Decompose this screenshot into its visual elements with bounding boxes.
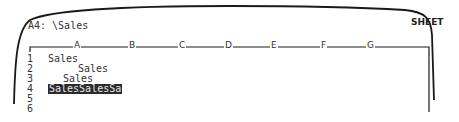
column-header-a[interactable]: A (73, 40, 81, 50)
mode-indicator: SHEET (411, 17, 443, 27)
column-header-e[interactable]: E (270, 40, 278, 50)
column-header-d[interactable]: D (224, 40, 233, 50)
cell-indicator: A4: \Sales (28, 20, 88, 31)
cell-a1[interactable]: Sales (48, 54, 78, 64)
row-header-6[interactable]: 6 (27, 104, 33, 114)
cell-a4-selected[interactable]: SalesSalesSa (48, 84, 122, 94)
column-header-f[interactable]: F (320, 40, 327, 50)
column-header-g[interactable]: G (366, 40, 375, 50)
column-header-b[interactable]: B (128, 40, 136, 50)
column-header-c[interactable]: C (178, 40, 186, 50)
